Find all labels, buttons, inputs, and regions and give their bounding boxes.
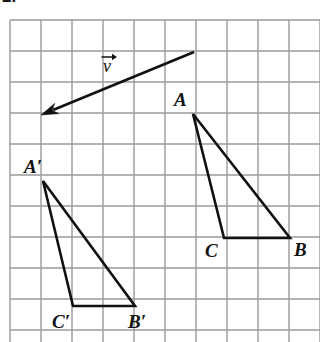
triangle-ABC	[193, 114, 290, 238]
grid-layer	[10, 20, 320, 342]
vector-shaft	[53, 52, 194, 110]
vertex-label-A: A	[173, 89, 187, 110]
vertex-label-B: B	[293, 239, 307, 260]
vertex-label-Bprime: B′	[127, 311, 146, 332]
vertex-label-C: C	[205, 240, 218, 261]
vector-translation-figure: 2. ABCA′B′C′ν	[0, 0, 320, 342]
vector-label: ν	[103, 56, 111, 76]
vertex-label-Aprime: A′	[23, 156, 42, 177]
vertex-label-Cprime: C′	[52, 311, 70, 332]
vector-label-arrowhead	[112, 54, 117, 60]
triangle-A'B'C'	[43, 181, 135, 306]
geometry-canvas: ABCA′B′C′ν	[0, 0, 320, 342]
